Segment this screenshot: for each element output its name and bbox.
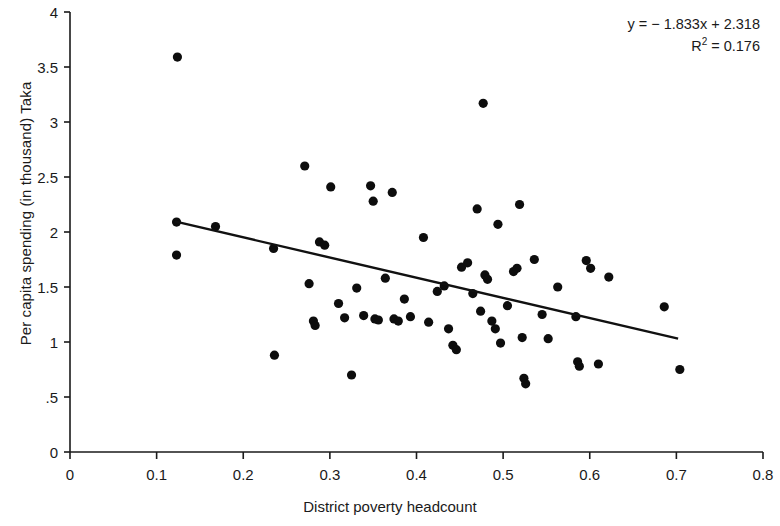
y-axis-tick-label: .5	[45, 389, 58, 406]
scatter-plot-figure: Per capita spending (in thousand) Taka D…	[0, 0, 780, 526]
data-point	[452, 345, 461, 354]
data-point	[173, 53, 182, 62]
data-point	[586, 264, 595, 273]
data-point	[366, 181, 375, 190]
y-axis-tick-label: 1	[50, 334, 58, 351]
data-point	[406, 312, 415, 321]
data-point	[575, 362, 584, 371]
data-point	[483, 275, 492, 284]
data-point	[521, 379, 530, 388]
data-point	[493, 220, 502, 229]
r-squared-value: = 0.176	[707, 38, 760, 54]
data-point	[359, 311, 368, 320]
data-point	[515, 200, 524, 209]
data-point	[369, 197, 378, 206]
data-point	[304, 279, 313, 288]
data-point	[463, 258, 472, 267]
data-point	[660, 302, 669, 311]
data-point	[604, 273, 613, 282]
x-axis-tick-label: 0.6	[579, 466, 600, 483]
data-point	[582, 256, 591, 265]
data-point	[538, 310, 547, 319]
x-axis-tick-label: 0.4	[406, 466, 427, 483]
x-axis-title: District poverty headcount	[0, 498, 780, 515]
x-axis-tick-label: 0.5	[493, 466, 514, 483]
data-point	[518, 333, 527, 342]
x-axis: 00.10.20.30.40.50.60.70.8	[66, 452, 774, 483]
r-squared-line: R2 = 0.176	[627, 35, 760, 57]
y-axis: 0.511.522.533.54	[37, 4, 70, 461]
x-axis-tick-label: 0.2	[233, 466, 254, 483]
data-point	[491, 324, 500, 333]
data-point	[479, 99, 488, 108]
data-point	[172, 251, 181, 260]
x-axis-tick-label: 0.8	[753, 466, 774, 483]
data-point	[476, 307, 485, 316]
y-axis-tick-label: 0	[50, 444, 58, 461]
data-point	[300, 161, 309, 170]
regression-equation: y = − 1.833x + 2.318	[627, 14, 760, 35]
y-axis-tick-label: 2.5	[37, 169, 58, 186]
data-point	[388, 188, 397, 197]
x-axis-tick-label: 0	[66, 466, 74, 483]
y-axis-tick-label: 3	[50, 114, 58, 131]
data-point	[374, 315, 383, 324]
data-point	[381, 274, 390, 283]
data-points-layer	[172, 53, 684, 389]
y-axis-tick-label: 4	[50, 4, 58, 21]
data-point	[496, 339, 505, 348]
y-axis-tick-label: 2	[50, 224, 58, 241]
y-axis-title: Per capita spending (in thousand) Taka	[17, 34, 34, 394]
data-point	[270, 351, 279, 360]
data-point	[419, 233, 428, 242]
y-axis-tick-label: 1.5	[37, 279, 58, 296]
data-point	[503, 301, 512, 310]
data-point	[473, 204, 482, 213]
data-point	[544, 334, 553, 343]
data-point	[334, 299, 343, 308]
data-point	[320, 241, 329, 250]
data-point	[400, 295, 409, 304]
data-point	[311, 321, 320, 330]
data-point	[444, 324, 453, 333]
data-point	[347, 370, 356, 379]
x-axis-tick-label: 0.3	[319, 466, 340, 483]
data-point	[530, 255, 539, 264]
y-axis-tick-label: 3.5	[37, 59, 58, 76]
data-point	[394, 317, 403, 326]
data-point	[512, 264, 521, 273]
regression-annotation: y = − 1.833x + 2.318 R2 = 0.176	[627, 14, 760, 57]
data-point	[675, 365, 684, 374]
data-point	[553, 282, 562, 291]
data-point	[352, 284, 361, 293]
r-squared-label: R	[691, 38, 701, 54]
data-point	[326, 182, 335, 191]
data-point	[594, 359, 603, 368]
x-axis-tick-label: 0.7	[666, 466, 687, 483]
x-axis-tick-label: 0.1	[146, 466, 167, 483]
data-point	[424, 318, 433, 327]
data-point	[340, 313, 349, 322]
plot-canvas: 0.511.522.533.54 00.10.20.30.40.50.60.70…	[0, 0, 780, 526]
